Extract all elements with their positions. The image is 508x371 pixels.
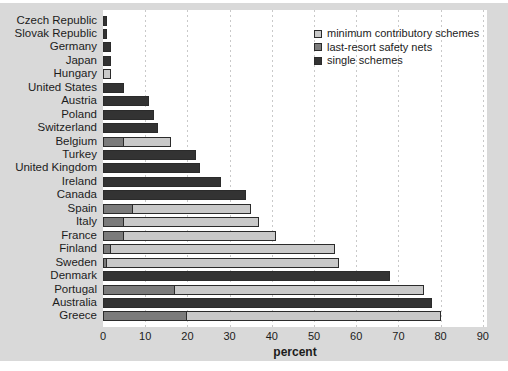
x-tick-label: 40 <box>266 330 278 342</box>
bar-row <box>103 148 487 162</box>
x-tick-label: 50 <box>308 330 320 342</box>
bar-segment-last_resort <box>103 285 175 295</box>
y-axis-labels: Czech RepublicSlovak RepublicGermanyJapa… <box>0 10 97 327</box>
category-label: Australia <box>0 296 97 309</box>
category-label: Japan <box>0 54 97 67</box>
bar-segment-single <box>103 190 246 200</box>
category-label: United States <box>0 81 97 94</box>
bar-segment-single <box>103 96 149 106</box>
category-label: Sweden <box>0 256 97 269</box>
legend-swatch-minimum-contributory-icon <box>314 30 322 38</box>
bar-segment-single <box>103 42 111 52</box>
bar-segment-minimum_contributory <box>174 285 424 295</box>
category-label: Slovak Republic <box>0 27 97 40</box>
bar-row <box>103 94 487 108</box>
bar-segment-single <box>103 298 432 308</box>
bar-row <box>103 296 487 310</box>
legend-label: last-resort safety nets <box>327 42 432 53</box>
x-tick-label: 0 <box>100 330 106 342</box>
category-label: Canada <box>0 188 97 201</box>
category-label: Denmark <box>0 269 97 282</box>
bar-segment-minimum_contributory <box>123 231 276 241</box>
legend-label: minimum contributory schemes <box>327 28 479 39</box>
bar-row <box>103 269 487 283</box>
bar-segment-minimum_contributory <box>110 244 335 254</box>
x-tick-label: 60 <box>350 330 362 342</box>
bar-segment-single <box>103 56 111 66</box>
bar-row <box>103 188 487 202</box>
category-label: Finland <box>0 242 97 255</box>
bar-row <box>103 202 487 216</box>
bar-segment-single <box>103 150 196 160</box>
category-label: Greece <box>0 309 97 322</box>
category-label: Italy <box>0 215 97 228</box>
bar-row <box>103 215 487 229</box>
bar-segment-single <box>103 123 158 133</box>
bar-row <box>103 135 487 149</box>
x-axis-ticks: 0102030405060708090 <box>103 330 487 344</box>
bar-row <box>103 14 487 28</box>
bar-segment-single <box>103 29 107 39</box>
bar-row <box>103 108 487 122</box>
bar-segment-last_resort <box>103 231 124 241</box>
bar-row <box>103 229 487 243</box>
legend-label: single schemes <box>327 55 403 66</box>
legend-item-single-schemes: single schemes <box>314 54 479 68</box>
category-label: Ireland <box>0 175 97 188</box>
x-tick-label: 10 <box>139 330 151 342</box>
bar-segment-last_resort <box>103 204 133 214</box>
x-tick-label: 70 <box>392 330 404 342</box>
bar-row <box>103 283 487 297</box>
bar-row <box>103 121 487 135</box>
bar-row <box>103 242 487 256</box>
bar-segment-single <box>103 177 221 187</box>
bar-segment-minimum_contributory <box>103 69 111 79</box>
bar-segment-single <box>103 110 154 120</box>
bar-segment-single <box>103 163 200 173</box>
bar-segment-single <box>103 271 390 281</box>
category-label: Austria <box>0 94 97 107</box>
bar-row <box>103 175 487 189</box>
bar-segment-minimum_contributory <box>123 217 259 227</box>
x-tick-label: 20 <box>181 330 193 342</box>
bar-segment-single <box>103 83 124 93</box>
category-label: Czech Republic <box>0 14 97 27</box>
bar-row <box>103 309 487 323</box>
category-label: Spain <box>0 202 97 215</box>
category-label: United Kingdom <box>0 161 97 174</box>
category-label: France <box>0 229 97 242</box>
bar-segment-minimum_contributory <box>132 204 251 214</box>
legend-swatch-last-resort-icon <box>314 43 322 51</box>
category-label: Poland <box>0 108 97 121</box>
x-tick-label: 30 <box>223 330 235 342</box>
x-tick-label: 90 <box>477 330 489 342</box>
legend-swatch-single-icon <box>314 57 322 65</box>
pension-schemes-chart: Czech RepublicSlovak RepublicGermanyJapa… <box>0 0 508 371</box>
bar-row <box>103 161 487 175</box>
category-label: Portugal <box>0 283 97 296</box>
category-label: Hungary <box>0 67 97 80</box>
bar-row <box>103 67 487 81</box>
category-label: Switzerland <box>0 121 97 134</box>
bar-segment-last_resort <box>103 217 124 227</box>
bar-segment-minimum_contributory <box>186 311 440 321</box>
bar-row <box>103 256 487 270</box>
bar-segment-minimum_contributory <box>106 258 339 268</box>
x-tick-label: 80 <box>434 330 446 342</box>
bar-segment-minimum_contributory <box>123 137 170 147</box>
bar-row <box>103 81 487 95</box>
legend: minimum contributory schemes last-resort… <box>314 27 479 68</box>
bar-segment-single <box>103 16 107 26</box>
x-axis-title: percent <box>103 345 487 359</box>
bar-segment-last_resort <box>103 311 187 321</box>
category-label: Belgium <box>0 135 97 148</box>
category-label: Germany <box>0 40 97 53</box>
legend-item-last-resort-safety-nets: last-resort safety nets <box>314 41 479 55</box>
category-label: Turkey <box>0 148 97 161</box>
legend-item-minimum-contributory-schemes: minimum contributory schemes <box>314 27 479 41</box>
bar-segment-last_resort <box>103 137 124 147</box>
